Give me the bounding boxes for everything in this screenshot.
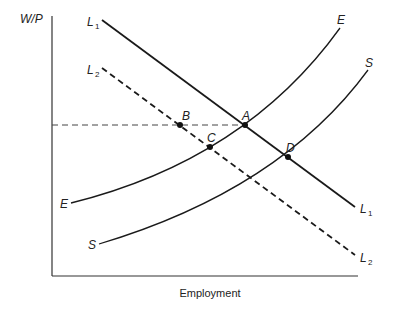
label-l2-bottom: L 2 — [360, 251, 373, 267]
curve-s — [99, 70, 368, 244]
svg-text:L: L — [360, 251, 367, 265]
label-l1-top: L 1 — [87, 15, 100, 31]
labor-market-diagram: W/P Employment L 1 L 2 L 1 L 2 E E S S A… — [0, 0, 395, 310]
curve-e — [71, 28, 340, 203]
point-d-label: D — [286, 141, 295, 155]
svg-text:L: L — [87, 15, 94, 29]
label-e-bottom: E — [60, 197, 69, 211]
svg-text:1: 1 — [368, 209, 373, 218]
label-s-top: S — [365, 56, 373, 70]
label-e-top: E — [337, 13, 346, 27]
label-l2-top: L 2 — [87, 63, 100, 79]
label-l1-bottom: L 1 — [360, 202, 373, 218]
point-a-label: A — [241, 109, 250, 123]
svg-text:2: 2 — [95, 70, 100, 79]
svg-text:1: 1 — [95, 22, 100, 31]
point-b-label: B — [182, 109, 190, 123]
label-s-bottom: S — [88, 238, 96, 252]
curve-l2 — [102, 68, 355, 255]
svg-text:L: L — [87, 63, 94, 77]
point-c-label: C — [207, 131, 216, 145]
svg-text:2: 2 — [368, 258, 373, 267]
svg-text:L: L — [360, 202, 367, 216]
y-axis-label: W/P — [20, 12, 43, 26]
curve-l1 — [102, 20, 355, 207]
x-axis-label: Employment — [179, 287, 240, 299]
